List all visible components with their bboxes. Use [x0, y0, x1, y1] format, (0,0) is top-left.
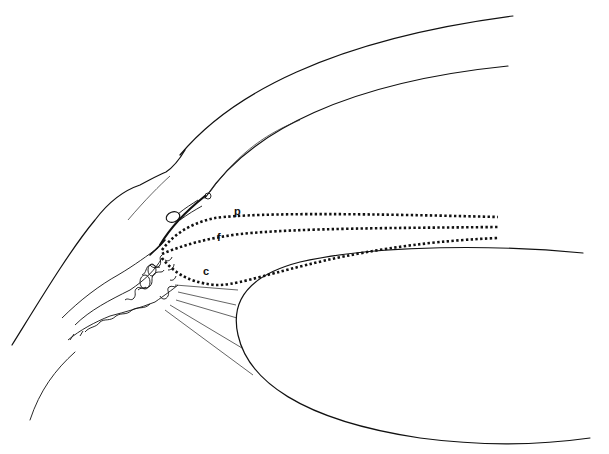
- sclera-contour: [12, 150, 185, 345]
- eye-angle-diagram: p f c: [0, 0, 609, 454]
- ciliary-body: [62, 248, 178, 340]
- label-p: p: [234, 205, 241, 217]
- outer-cornea-line: [180, 16, 513, 155]
- lower-globe-curve: [30, 352, 75, 420]
- label-f: f: [217, 231, 221, 243]
- dotted-path-c: [162, 238, 498, 285]
- inner-cornea-line: [205, 66, 508, 198]
- sclera-inner-line: [128, 176, 170, 220]
- lens-outline: [236, 248, 590, 444]
- dotted-path-p: [162, 214, 498, 250]
- descemet-line: [210, 120, 300, 192]
- zonular-fibers: [165, 285, 253, 375]
- label-c: c: [203, 265, 209, 277]
